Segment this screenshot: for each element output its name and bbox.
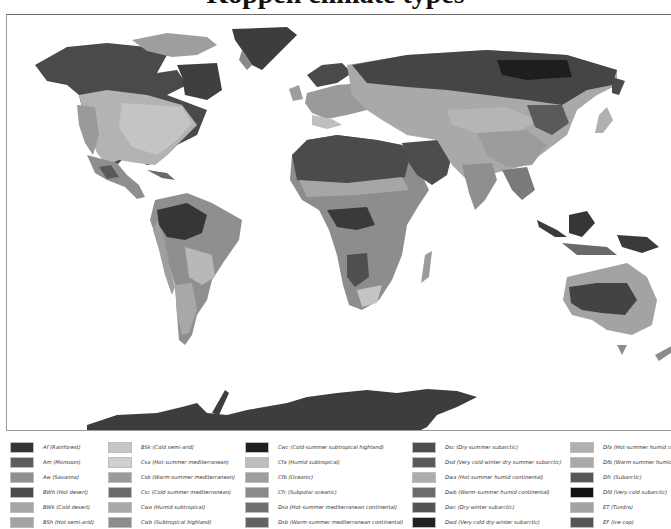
legend-item-csb: Csb (Warm-summer mediterranean): [108, 470, 235, 484]
legend-label: Cwc (Cold-summer subtropical highland): [278, 444, 384, 450]
legend-label: Aw (Savanna): [43, 474, 79, 480]
legend-item-dwa: Dwa (Hot-summer humid continental): [412, 470, 543, 484]
legend-swatch: [412, 457, 436, 468]
legend-swatch: [245, 517, 269, 528]
legend-label: EF (Ice-cap): [603, 519, 634, 525]
antarctica: [87, 389, 477, 431]
legend-label: Dfd (Very-cold subarctic): [603, 489, 667, 495]
legend-item-csa: Csa (Hot-summer mediterranean): [108, 455, 229, 469]
legend-item-dfb: Dfb (Warm-summer humid continental): [570, 455, 671, 469]
world-climate-map: [6, 14, 671, 431]
legend-swatch: [10, 517, 34, 528]
legend-swatch: [570, 457, 594, 468]
legend-item-dwb: Dwb (Warm-summer humid continental): [412, 485, 550, 499]
legend-swatch: [108, 502, 132, 513]
legend-label: BSh (Hot semi-arid): [43, 519, 94, 525]
legend-item-et: ET (Tundra): [570, 500, 633, 514]
legend-swatch: [570, 517, 594, 528]
legend-label: Dfb (Warm-summer humid continental): [603, 459, 671, 465]
legend-item-cfb: Cfb (Oceanic): [245, 470, 313, 484]
legend-label: Cfa (Humid subtropical): [278, 459, 340, 465]
legend-swatch: [10, 502, 34, 513]
south-america: [150, 193, 242, 345]
legend-swatch: [10, 457, 34, 468]
legend-swatch: [570, 442, 594, 453]
legend-label: BSk (Cold semi-arid): [141, 444, 194, 450]
legend-item-ef: EF (Ice-cap): [570, 515, 634, 529]
legend-item-cwa: Cwa (Humid subtropical): [108, 500, 205, 514]
legend-swatch: [570, 472, 594, 483]
map-title: Köppen climate types: [0, 0, 671, 10]
legend-swatch: [245, 502, 269, 513]
legend-swatch: [108, 517, 132, 528]
legend-label: Dsd (Very cold-winter dry-summer subarct…: [445, 459, 562, 465]
legend-label: BWh (Hot desert): [43, 489, 88, 495]
legend-item-am: Am (Monsoon): [10, 455, 81, 469]
legend-label: BWk (Cold desert): [43, 504, 90, 510]
legend-swatch: [570, 502, 594, 513]
legend-item-dsd: Dsd (Very cold-winter dry-summer subarct…: [412, 455, 562, 469]
legend-label: Dwc (Dry-winter subarctic): [445, 504, 514, 510]
legend-item-dsc: Dsc (Dry-summer subarctic): [412, 440, 518, 454]
legend-swatch: [245, 487, 269, 498]
legend-swatch: [245, 457, 269, 468]
legend-swatch: [412, 502, 436, 513]
legend-item-cfa: Cfa (Humid subtropical): [245, 455, 340, 469]
legend-label: Csc (Cold-summer mediterranean): [141, 489, 231, 495]
legend-item-bwh: BWh (Hot desert): [10, 485, 88, 499]
legend-item-dfa: Dfa (Hot-summer humid continental): [570, 440, 671, 454]
legend-item-bsk: BSk (Cold semi-arid): [108, 440, 194, 454]
legend-label: Dwb (Warm-summer humid continental): [445, 489, 550, 495]
legend-label: Dsa (Hot-summer mediterranean continenta…: [278, 504, 397, 510]
australia: [563, 263, 671, 361]
legend-label: ET (Tundra): [603, 504, 633, 510]
legend-swatch: [108, 472, 132, 483]
legend-label: Cwa (Humid subtropical): [141, 504, 205, 510]
legend-item-dsa: Dsa (Hot-summer mediterranean continenta…: [245, 500, 397, 514]
legend-item-cfc: Cfc (Subpolar oceanic): [245, 485, 337, 499]
legend-swatch: [412, 472, 436, 483]
legend-swatch: [245, 472, 269, 483]
legend-item-aw: Aw (Savanna): [10, 470, 79, 484]
legend-swatch: [412, 517, 436, 528]
world-map-graphic: [7, 15, 671, 431]
legend-item-csc: Csc (Cold-summer mediterranean): [108, 485, 231, 499]
legend-label: Dsc (Dry-summer subarctic): [445, 444, 518, 450]
legend-item-af: Af (Rainforest): [10, 440, 81, 454]
legend-swatch: [10, 442, 34, 453]
legend-swatch: [108, 487, 132, 498]
legend-label: Am (Monsoon): [43, 459, 81, 465]
legend-item-dwd: Dwd (Very-cold dry-winter subarctic): [412, 515, 540, 529]
legend-item-dfc: Dfc (Subarctic): [570, 470, 642, 484]
legend-swatch: [10, 472, 34, 483]
legend-swatch: [108, 457, 132, 468]
legend-label: Cfb (Oceanic): [278, 474, 313, 480]
legend-item-cwb: Cwb (Subtropical highland): [108, 515, 211, 529]
legend-label: Dfc (Subarctic): [603, 474, 642, 480]
legend-item-dfd: Dfd (Very-cold subarctic): [570, 485, 667, 499]
legend-label: Dsb (Warm-summer mediterranean continent…: [278, 519, 403, 525]
legend-swatch: [10, 487, 34, 498]
legend-swatch: [108, 442, 132, 453]
legend-label: Cfc (Subpolar oceanic): [278, 489, 337, 495]
legend-swatch: [245, 442, 269, 453]
legend-label: Af (Rainforest): [43, 444, 81, 450]
legend-swatch: [412, 487, 436, 498]
legend-item-bwk: BWk (Cold desert): [10, 500, 90, 514]
legend-swatch: [412, 442, 436, 453]
legend-item-bsh: BSh (Hot semi-arid): [10, 515, 94, 529]
legend-label: Csa (Hot-summer mediterranean): [141, 459, 229, 465]
legend-item-dwc: Dwc (Dry-winter subarctic): [412, 500, 514, 514]
legend-label: Cwb (Subtropical highland): [141, 519, 211, 525]
north-america: [35, 27, 297, 199]
legend-item-dsb: Dsb (Warm-summer mediterranean continent…: [245, 515, 403, 529]
legend-swatch: [570, 487, 594, 498]
legend-label: Dfa (Hot-summer humid continental): [603, 444, 671, 450]
climate-legend: Af (Rainforest) Am (Monsoon) Aw (Savanna…: [0, 436, 671, 529]
maritime-southeast-asia: [537, 211, 659, 255]
legend-label: Dwd (Very-cold dry-winter subarctic): [445, 519, 540, 525]
legend-item-cwc: Cwc (Cold-summer subtropical highland): [245, 440, 384, 454]
legend-label: Csb (Warm-summer mediterranean): [141, 474, 235, 480]
legend-label: Dwa (Hot-summer humid continental): [445, 474, 543, 480]
